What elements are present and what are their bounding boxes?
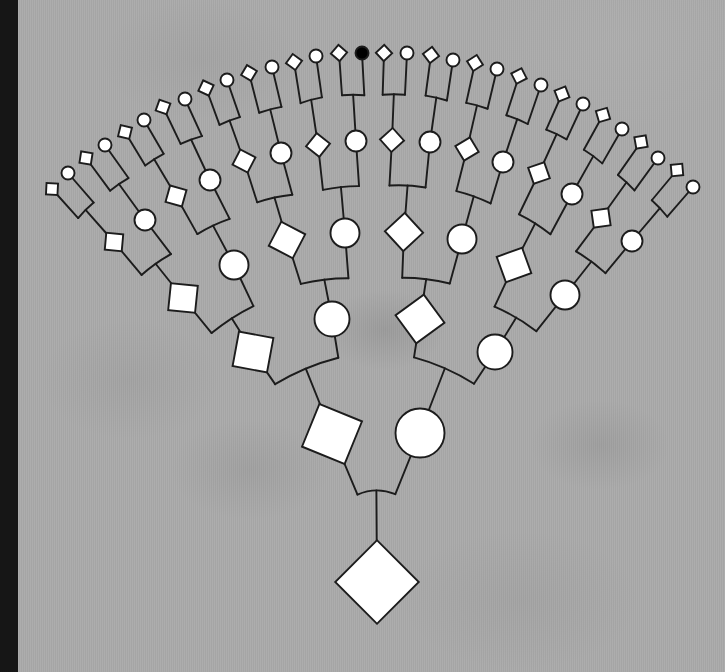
couple-bar-line bbox=[584, 150, 602, 164]
male-symbol bbox=[511, 68, 526, 83]
female-symbol bbox=[310, 50, 323, 63]
female-symbol bbox=[493, 152, 514, 173]
female-symbol bbox=[221, 74, 234, 87]
male-symbol bbox=[79, 151, 92, 164]
couple-bar-line bbox=[145, 154, 163, 166]
female-symbol bbox=[478, 335, 513, 370]
female-symbol bbox=[135, 210, 156, 231]
couple-bar-line bbox=[506, 115, 527, 124]
male-symbol bbox=[423, 47, 439, 63]
male-symbol bbox=[306, 133, 330, 157]
male-symbol bbox=[671, 164, 683, 176]
female-symbol bbox=[562, 184, 583, 205]
female-symbol bbox=[535, 79, 548, 92]
female-symbol bbox=[616, 123, 629, 136]
male-symbol bbox=[555, 87, 570, 102]
male-symbol bbox=[286, 54, 302, 70]
male-symbol bbox=[269, 222, 305, 258]
female-symbol bbox=[138, 114, 151, 127]
couple-bar-line bbox=[618, 175, 634, 191]
female-symbol bbox=[266, 61, 279, 74]
female-symbol bbox=[62, 167, 75, 180]
male-symbol bbox=[497, 248, 532, 283]
male-symbol bbox=[596, 108, 610, 122]
male-symbol bbox=[591, 208, 610, 227]
female-symbol bbox=[401, 47, 414, 60]
female-symbol bbox=[200, 170, 221, 191]
female-symbol bbox=[220, 251, 249, 280]
female-symbol bbox=[179, 93, 192, 106]
male-symbol bbox=[118, 125, 132, 139]
pedigree-fan-diagram bbox=[0, 0, 725, 672]
female-symbol bbox=[396, 409, 445, 458]
male-symbol bbox=[168, 283, 198, 313]
male-symbol bbox=[241, 65, 257, 81]
male-symbol bbox=[467, 55, 483, 71]
male-symbol bbox=[166, 186, 187, 207]
male-symbol bbox=[331, 45, 347, 61]
female-symbol bbox=[420, 132, 441, 153]
female-symbol bbox=[491, 63, 504, 76]
male-symbol bbox=[156, 100, 171, 115]
male-symbol bbox=[396, 295, 445, 344]
female-symbol bbox=[331, 219, 360, 248]
male-symbol bbox=[302, 404, 362, 464]
female-symbol bbox=[622, 231, 643, 252]
male-symbol bbox=[455, 137, 478, 160]
female-symbol bbox=[271, 143, 292, 164]
female-symbol bbox=[577, 98, 590, 111]
female-symbol bbox=[447, 54, 460, 67]
paper-background bbox=[0, 0, 725, 672]
male-symbol bbox=[233, 332, 274, 373]
male-symbol bbox=[634, 135, 647, 148]
couple-bar-line bbox=[181, 136, 202, 144]
female-symbol bbox=[99, 139, 112, 152]
female-symbol bbox=[652, 152, 665, 165]
male-symbol bbox=[105, 233, 123, 251]
male-symbol bbox=[528, 162, 550, 184]
male-symbol bbox=[380, 128, 404, 152]
unspecified-sex-diamond-symbol bbox=[335, 540, 418, 623]
couple-bar-line bbox=[546, 130, 566, 140]
male-symbol bbox=[385, 213, 423, 251]
male-symbol bbox=[46, 183, 58, 195]
female-symbol bbox=[448, 225, 477, 254]
individual-symbol-layer bbox=[46, 45, 700, 624]
female-symbol bbox=[551, 281, 580, 310]
female-symbol bbox=[315, 302, 350, 337]
female-symbol bbox=[346, 131, 367, 152]
couple-bar-line bbox=[110, 178, 128, 191]
male-symbol bbox=[233, 150, 256, 173]
connector-layer bbox=[52, 53, 693, 582]
affected-female-symbol bbox=[356, 47, 369, 60]
male-symbol bbox=[376, 45, 392, 61]
male-symbol bbox=[198, 80, 213, 95]
female-symbol bbox=[687, 181, 700, 194]
